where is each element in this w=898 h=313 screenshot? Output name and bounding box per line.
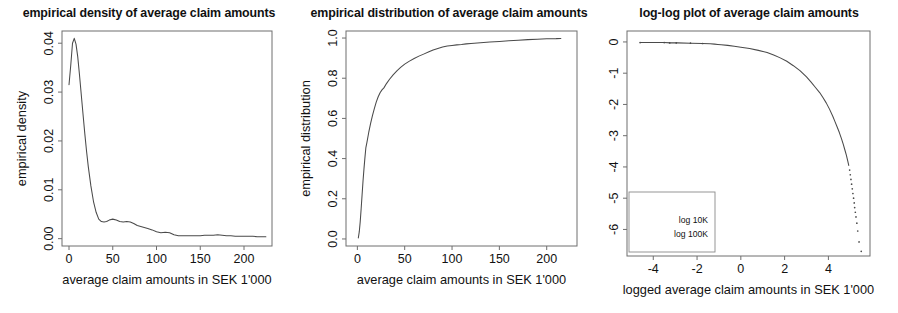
data-point — [854, 207, 856, 209]
y-tick-label: 0.00 — [42, 226, 56, 250]
y-tick-label: 0.4 — [326, 150, 340, 167]
data-point — [849, 174, 851, 176]
x-tick-label: 4 — [825, 262, 832, 276]
y-tick-label: 0.0 — [326, 230, 340, 247]
data-point — [853, 197, 855, 199]
data-point — [857, 230, 859, 232]
y-tick-label: 0.8 — [326, 69, 340, 86]
panel-3-plot: -4-2024-6-5-4-3-2-10logged average claim… — [600, 0, 898, 313]
data-point — [851, 183, 853, 185]
x-tick-label: 100 — [146, 252, 167, 266]
y-tick-label: 0.03 — [42, 80, 56, 104]
data-point — [849, 169, 851, 171]
panel-1-plot: 0501001502000.000.010.020.030.04average … — [0, 0, 298, 313]
x-axis-label: average claim amounts in SEK 1'000 — [62, 272, 271, 287]
y-tick-label: 0.2 — [326, 190, 340, 207]
survival-curve — [640, 43, 849, 166]
density-curve — [69, 38, 266, 236]
legend-entry-0: log 10K — [679, 215, 708, 225]
data-point — [852, 193, 854, 195]
data-point — [639, 42, 641, 44]
three-panel-figure: empirical density of average claim amoun… — [0, 0, 898, 313]
x-tick-label: 0 — [354, 252, 361, 266]
x-tick-label: 2 — [781, 262, 788, 276]
data-point — [690, 42, 692, 44]
x-tick-label: 150 — [190, 252, 211, 266]
data-point — [850, 179, 852, 181]
distribution-curve — [358, 38, 561, 238]
y-tick-label: 0.04 — [42, 31, 56, 55]
y-tick-label: 0.02 — [42, 129, 56, 153]
y-tick-label: -1 — [607, 68, 621, 79]
y-tick-label: -3 — [607, 130, 621, 141]
data-point — [860, 250, 862, 252]
y-tick-label: 0.6 — [326, 110, 340, 127]
y-tick-label: -6 — [607, 224, 621, 235]
panel-log-log-plot: log-log plot of average claim amounts -4… — [600, 0, 898, 313]
x-tick-label: 50 — [398, 252, 412, 266]
data-point — [702, 43, 704, 45]
x-tick-label: 200 — [536, 252, 557, 266]
panel-empirical-distribution: empirical distribution of average claim … — [300, 0, 598, 313]
x-tick-label: 0 — [737, 262, 744, 276]
x-tick-label: 200 — [234, 252, 255, 266]
y-tick-label: -5 — [607, 193, 621, 204]
y-tick-label: 1.0 — [326, 29, 340, 46]
y-axis-label: empirical distribution — [300, 80, 313, 197]
y-axis-label: empirical density — [14, 90, 29, 186]
x-tick-label: 50 — [106, 252, 120, 266]
y-tick-label: -2 — [607, 99, 621, 110]
y-tick-label: -4 — [607, 161, 621, 172]
x-axis-label: average claim amounts in SEK 1'000 — [357, 272, 566, 287]
x-tick-label: -2 — [691, 262, 702, 276]
x-tick-label: 150 — [489, 252, 510, 266]
x-axis-label: logged average claim amounts in SEK 1'00… — [623, 282, 874, 297]
data-point — [855, 216, 857, 218]
data-layer — [69, 38, 266, 236]
data-point — [854, 211, 856, 213]
data-point — [669, 42, 671, 44]
y-tick-label: 0 — [607, 38, 621, 45]
legend-entry-1: log 100K — [674, 229, 708, 239]
data-point — [675, 42, 677, 44]
x-tick-label: -4 — [648, 262, 659, 276]
panel-empirical-density: empirical density of average claim amoun… — [0, 0, 298, 313]
data-point — [853, 202, 855, 204]
x-tick-label: 0 — [66, 252, 73, 266]
plot-frame — [62, 31, 272, 246]
panel-2-plot: 0501001502000.00.20.40.60.81.0average cl… — [300, 0, 598, 313]
x-tick-label: 100 — [442, 252, 463, 266]
data-layer — [358, 38, 561, 238]
data-point — [856, 222, 858, 224]
data-point — [858, 241, 860, 243]
data-point — [663, 42, 665, 44]
y-tick-label: 0.01 — [42, 178, 56, 202]
data-point — [851, 188, 853, 190]
plot-frame — [346, 31, 577, 246]
